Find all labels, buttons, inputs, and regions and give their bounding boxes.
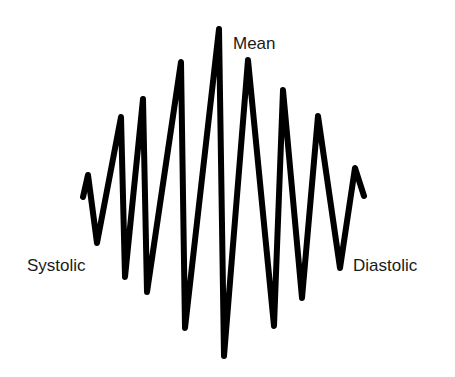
systolic-label: Systolic [27, 257, 86, 274]
oscillation-waveform [83, 29, 364, 356]
mean-label: Mean [233, 35, 276, 52]
diastolic-label: Diastolic [353, 257, 417, 274]
oscillometric-waveform-diagram [0, 0, 455, 377]
